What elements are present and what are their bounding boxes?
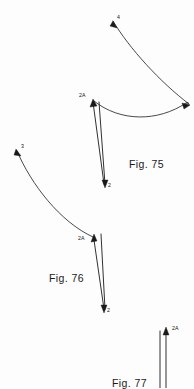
shaft-left-up — [94, 240, 104, 309]
shaft-right-up — [101, 234, 105, 309]
upper-trajectory-curve — [113, 21, 189, 104]
figure-caption-76: Fig. 76 — [49, 272, 84, 284]
arrow-4-head — [110, 21, 117, 28]
reference-numeral-2a-fig76: 2A — [78, 236, 84, 241]
figure-caption-75: Fig. 75 — [129, 158, 164, 170]
reference-numeral-2a-fig75: 2A — [79, 93, 85, 98]
reference-numeral-2-fig75: 2 — [108, 183, 111, 188]
vector-layer — [14, 21, 190, 388]
figure-caption-77: Fig. 77 — [112, 377, 147, 389]
reference-numeral-4: 4 — [117, 15, 120, 20]
left-trajectory-curve — [17, 151, 93, 237]
arrow-3-head — [14, 149, 21, 156]
fig-76-geometry — [14, 149, 107, 313]
fig-77-geometry — [160, 327, 169, 388]
reference-numeral-2a-fig77: 2A — [172, 326, 178, 331]
arrow-2a-head — [91, 234, 97, 242]
reference-numeral-2-fig76: 2 — [107, 308, 110, 313]
lower-sag-curve — [94, 101, 186, 117]
reference-numeral-3: 3 — [21, 144, 24, 149]
reference-numeral-5: 5 — [186, 102, 189, 107]
arrow-2a-head — [163, 327, 169, 335]
